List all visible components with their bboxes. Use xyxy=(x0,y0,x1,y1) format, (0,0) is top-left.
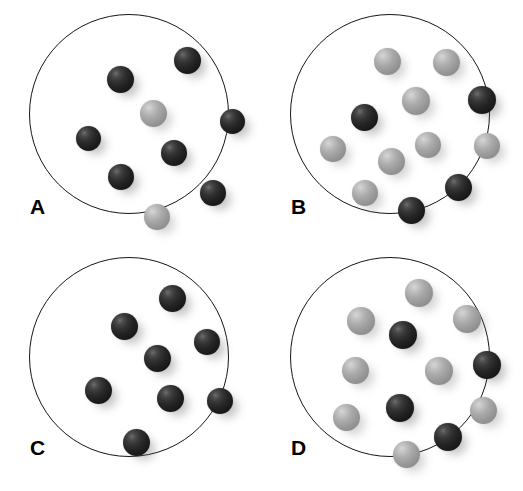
panel-b-sphere-light-6 xyxy=(320,136,346,162)
panel-c-label: C xyxy=(30,437,45,458)
panel-d-dish-outline xyxy=(290,257,490,457)
panel-d-sphere-dark-8 xyxy=(386,394,414,422)
panel-d-sphere-dark-7 xyxy=(473,351,501,379)
panel-b-sphere-light-7 xyxy=(415,132,441,158)
panel-b-label: B xyxy=(291,196,306,217)
panel-d-sphere-light-1 xyxy=(405,279,433,307)
panel-a-sphere-dark-7 xyxy=(108,164,134,190)
panel-b-sphere-light-8 xyxy=(474,133,500,159)
panel-d-sphere-light-9 xyxy=(333,404,360,431)
panel-a-sphere-light-3 xyxy=(140,100,167,127)
panel-c-sphere-dark-1 xyxy=(159,285,186,312)
panel-d-sphere-dark-11 xyxy=(434,423,462,451)
panel-a-label: A xyxy=(30,196,45,217)
panel-c-dish-outline xyxy=(29,257,229,457)
panel-b-sphere-dark-12 xyxy=(398,197,425,224)
panel-b-sphere-dark-5 xyxy=(351,104,378,131)
panel-b-sphere-light-3 xyxy=(402,87,430,115)
figure-container: ABCD xyxy=(0,0,523,491)
panel-d-sphere-light-10 xyxy=(470,397,497,424)
panel-d-sphere-light-5 xyxy=(342,357,369,384)
panel-d-label: D xyxy=(291,437,306,458)
panel-c-sphere-dark-3 xyxy=(194,329,220,355)
panel-b-sphere-dark-11 xyxy=(445,174,472,201)
panel-c-sphere-dark-8 xyxy=(123,429,150,456)
panel-b: B xyxy=(261,0,523,246)
panel-d-sphere-light-3 xyxy=(453,305,481,333)
panel-a-sphere-dark-5 xyxy=(76,126,101,151)
panel-c-sphere-dark-4 xyxy=(144,345,171,372)
panel-a-sphere-dark-1 xyxy=(174,47,201,74)
panel-c-sphere-dark-5 xyxy=(85,377,112,404)
panel-a-sphere-dark-6 xyxy=(161,140,187,166)
panel-a-sphere-dark-4 xyxy=(220,109,245,134)
panel-d: D xyxy=(261,245,523,491)
panel-a-sphere-light-9 xyxy=(144,204,170,230)
panel-c: C xyxy=(0,245,262,491)
panel-d-sphere-dark-4 xyxy=(389,321,417,349)
panel-b-sphere-dark-4 xyxy=(468,86,496,114)
panel-b-sphere-light-2 xyxy=(433,49,460,76)
panel-b-sphere-light-10 xyxy=(352,180,378,206)
panel-c-sphere-dark-7 xyxy=(207,388,233,414)
panel-c-sphere-dark-6 xyxy=(157,385,184,412)
panel-d-sphere-light-12 xyxy=(393,441,420,468)
panel-a-sphere-dark-8 xyxy=(200,180,226,206)
panel-c-sphere-dark-2 xyxy=(111,313,138,340)
panel-b-sphere-light-1 xyxy=(374,48,401,75)
panel-d-sphere-light-6 xyxy=(425,357,453,385)
panel-b-sphere-light-9 xyxy=(378,148,405,175)
panel-a-sphere-dark-2 xyxy=(107,66,134,93)
panel-a: A xyxy=(0,0,262,246)
panel-d-sphere-light-2 xyxy=(347,307,375,335)
